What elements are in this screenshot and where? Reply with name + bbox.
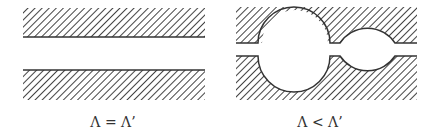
bottom-wall: [23, 70, 205, 100]
caption-less: Λ < Λ’: [260, 114, 380, 130]
top-wall: [23, 8, 205, 37]
caption-equal: Λ = Λ’: [53, 114, 173, 130]
panel-equal: [23, 8, 205, 100]
panel-less: [236, 7, 417, 100]
